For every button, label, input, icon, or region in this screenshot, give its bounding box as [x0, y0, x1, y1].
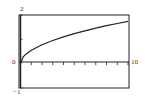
y-max-label: 2	[20, 6, 24, 13]
plot-frame	[19, 15, 129, 88]
plot-area	[0, 0, 145, 100]
data-curve	[21, 21, 129, 63]
y-min-label: −1	[13, 89, 20, 96]
x-min-label: 0	[12, 59, 16, 66]
x-max-label: 10	[131, 59, 138, 66]
x-ticks	[31, 62, 128, 65]
